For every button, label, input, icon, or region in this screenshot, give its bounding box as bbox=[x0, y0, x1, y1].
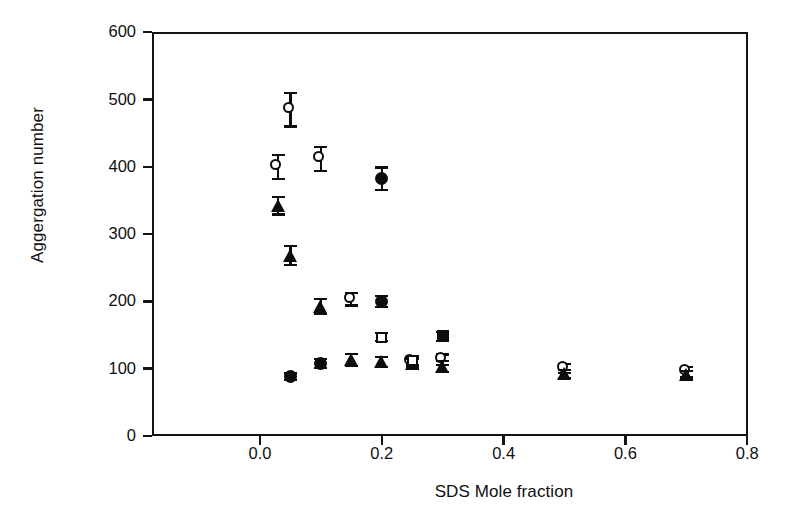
marker-filled-triangle-icon bbox=[374, 355, 388, 368]
error-bar-cap-bottom bbox=[375, 189, 388, 191]
marker-open-circle-icon bbox=[283, 102, 294, 113]
error-bar-cap-top bbox=[284, 245, 297, 247]
error-bar-cap-top bbox=[284, 92, 297, 94]
marker-filled-triangle-icon bbox=[435, 360, 449, 373]
marker-filled-square-icon bbox=[437, 330, 449, 342]
marker-filled-triangle-icon bbox=[557, 367, 571, 380]
x-axis-tick-label: 0.0 bbox=[230, 444, 290, 463]
error-bar-cap-top bbox=[375, 166, 388, 168]
error-bar-cap-bottom bbox=[272, 213, 285, 215]
error-bar-cap-bottom bbox=[314, 313, 327, 315]
y-axis-tick-label: 500 bbox=[76, 90, 136, 109]
marker-open-square-icon bbox=[376, 332, 387, 343]
error-bar-cap-bottom bbox=[284, 264, 297, 266]
x-axis-tick-label: 0.4 bbox=[474, 444, 534, 463]
y-axis-tick-mark bbox=[143, 435, 152, 438]
marker-filled-triangle-icon bbox=[271, 199, 285, 212]
y-axis-tick-mark bbox=[143, 367, 152, 370]
y-axis-tick-label: 0 bbox=[76, 426, 136, 445]
plot-area-frame bbox=[152, 32, 748, 436]
error-bar-cap-bottom bbox=[345, 304, 358, 306]
y-axis-tick-label: 200 bbox=[76, 291, 136, 310]
y-axis-tick-label: 400 bbox=[76, 157, 136, 176]
y-axis-tick-mark bbox=[143, 233, 152, 236]
marker-filled-triangle-icon bbox=[344, 353, 358, 366]
x-axis-title: SDS Mole fraction bbox=[260, 482, 748, 502]
y-axis-tick-label: 600 bbox=[76, 22, 136, 41]
x-axis-tick-label: 0.2 bbox=[352, 444, 412, 463]
y-axis-tick-label: 300 bbox=[76, 224, 136, 243]
y-axis-tick-mark bbox=[143, 166, 152, 169]
error-bar-cap-bottom bbox=[314, 170, 327, 172]
y-axis-tick-label: 100 bbox=[76, 359, 136, 378]
scatter-plot-figure: Aggergation number SDS Mole fraction 010… bbox=[0, 0, 793, 524]
y-axis-title: Aggergation number bbox=[28, 85, 48, 285]
marker-filled-triangle-icon bbox=[313, 300, 327, 313]
marker-filled-triangle-icon bbox=[283, 249, 297, 262]
marker-open-square-icon bbox=[407, 355, 418, 366]
marker-filled-triangle-icon bbox=[679, 368, 693, 381]
error-bar-cap-bottom bbox=[272, 178, 285, 180]
x-axis-tick-label: 0.6 bbox=[595, 444, 655, 463]
y-axis-tick-mark bbox=[143, 98, 152, 101]
y-axis-tick-mark bbox=[143, 300, 152, 303]
error-bar-cap-top bbox=[314, 146, 327, 148]
x-axis-tick-label: 0.8 bbox=[717, 444, 777, 463]
marker-open-circle-icon bbox=[313, 151, 324, 162]
y-axis-tick-mark bbox=[143, 31, 152, 34]
marker-open-circle-icon bbox=[344, 292, 355, 303]
error-bar-cap-bottom bbox=[284, 125, 297, 127]
error-bar-cap-top bbox=[272, 154, 285, 156]
